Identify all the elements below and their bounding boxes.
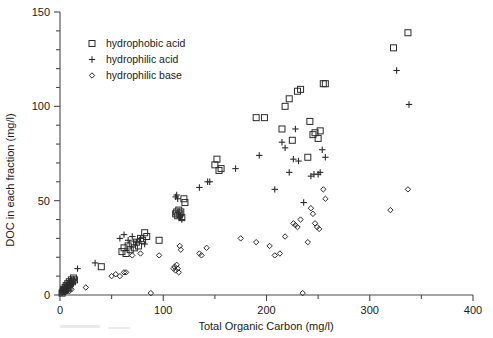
plot-canvas: 0100200300400050100150 Total Organic Car… — [0, 0, 493, 338]
x-axis-tick-label: 0 — [57, 304, 63, 316]
plot-background — [0, 0, 493, 338]
y-axis-tick-label: 0 — [44, 289, 50, 301]
x-axis-tick-label: 400 — [464, 304, 482, 316]
x-axis-title: Total Organic Carbon (mg/l) — [198, 320, 333, 332]
x-axis-tick-label: 100 — [154, 304, 172, 316]
y-axis-tick-label: 100 — [32, 100, 50, 112]
legend-label: hydrophilic base — [106, 69, 182, 81]
x-axis-tick-label: 300 — [361, 304, 379, 316]
legend-label: hydrophobic acid — [106, 37, 186, 49]
y-axis-tick-label: 150 — [32, 6, 50, 18]
legend-label: hydrophilic acid — [106, 53, 179, 65]
y-axis-tick-label: 50 — [38, 195, 50, 207]
x-axis-tick-label: 200 — [257, 304, 275, 316]
scatter-plot-figure: 0100200300400050100150 Total Organic Car… — [0, 0, 493, 338]
y-axis-title: DOC in each fraction (mg/l) — [4, 113, 16, 246]
